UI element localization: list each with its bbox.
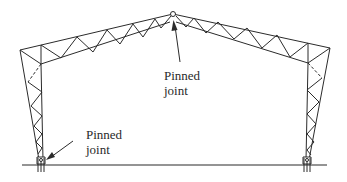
apex-pin-icon [171,12,176,17]
left-base-pin-icon [37,157,45,172]
right-base-pin-icon [303,157,311,172]
base-label-line2: joint [86,142,122,157]
left-rafter-truss [20,14,173,64]
base-pinned-joint-label: Pinned joint [86,127,122,157]
left-column-truss [20,50,43,160]
base-annotation-arrow [46,141,73,160]
apex-pinned-joint-label: Pinned joint [164,68,200,98]
apex-label-line1: Pinned [164,68,200,83]
base-label-line1: Pinned [86,127,122,142]
right-column-truss [306,48,330,160]
apex-annotation-arrow [172,20,181,62]
right-rafter-truss [173,14,330,63]
apex-label-line2: joint [164,83,200,98]
